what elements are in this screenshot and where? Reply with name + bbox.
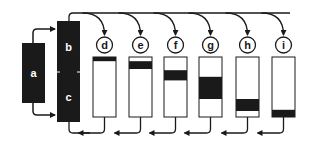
- tube-body: [93, 57, 116, 117]
- arrow-return-i: [258, 117, 284, 133]
- arrow-down-h: [226, 13, 248, 35]
- arrow-return-d: [79, 117, 105, 133]
- tube-band: [236, 99, 259, 111]
- tube-label: d: [101, 39, 108, 51]
- tube-label: e: [137, 39, 143, 51]
- arrow-return-g: [185, 117, 211, 133]
- arrow-return-h: [222, 117, 248, 133]
- fraction-tubes: defghi: [93, 37, 295, 117]
- tube-d: d: [93, 37, 116, 117]
- block-label: c: [65, 91, 71, 103]
- block-label: a: [30, 67, 37, 79]
- block-b: b: [57, 21, 80, 72]
- block-label: b: [65, 41, 72, 53]
- arrow-return-e: [115, 117, 141, 133]
- arrow-down-d: [83, 13, 105, 35]
- tube-body: [164, 57, 187, 117]
- arrow-down-g: [189, 13, 211, 35]
- tube-label: f: [174, 39, 178, 51]
- tube-body: [272, 57, 295, 117]
- arrow-down-e: [119, 13, 141, 35]
- arrow-down-f: [154, 13, 176, 35]
- tube-band: [129, 61, 152, 69]
- arrow-return-f: [150, 117, 176, 133]
- tube-label: h: [244, 39, 251, 51]
- tube-label: i: [282, 39, 285, 51]
- tube-i: i: [272, 37, 295, 117]
- tube-label: g: [207, 39, 214, 51]
- top-flow-line: [69, 13, 290, 21]
- tube-band: [164, 70, 187, 80]
- tube-band: [272, 110, 295, 117]
- tube-g: g: [199, 37, 222, 117]
- tube-band: [199, 77, 222, 99]
- tube-e: e: [129, 37, 152, 117]
- tube-h: h: [236, 37, 259, 117]
- column-blocks: abc: [22, 21, 80, 122]
- tube-band: [93, 57, 116, 61]
- bottom-return-start: [69, 122, 90, 133]
- arrow-a-to-c: [33, 103, 55, 115]
- block-a: a: [22, 43, 45, 103]
- arrow-down-i: [262, 13, 284, 35]
- chromatography-flow-diagram: abc defghi: [0, 0, 317, 147]
- tube-f: f: [164, 37, 187, 117]
- block-c: c: [57, 72, 80, 122]
- arrow-a-to-b: [33, 29, 55, 43]
